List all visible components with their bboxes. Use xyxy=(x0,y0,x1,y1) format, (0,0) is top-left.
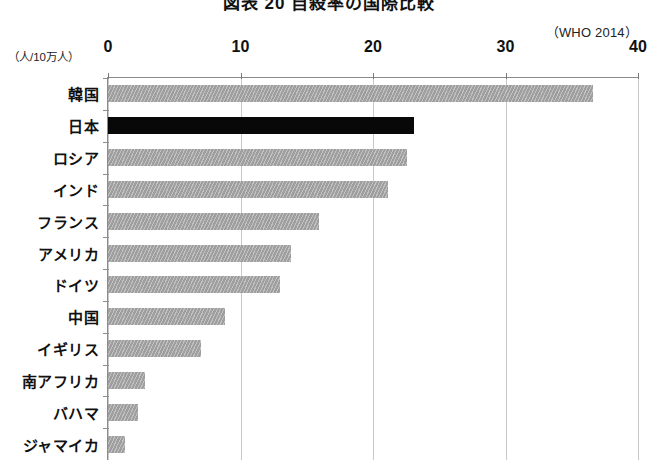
y-axis-category-label: イギリス xyxy=(3,333,99,365)
y-axis-tick xyxy=(103,428,109,429)
x-gridline xyxy=(638,78,639,460)
bar-row: イギリス xyxy=(108,333,638,365)
y-axis-category-label-text: 日本 xyxy=(68,115,99,136)
bar xyxy=(108,181,388,198)
y-axis-tick xyxy=(103,142,109,143)
x-axis-tick-label: 20 xyxy=(364,38,382,56)
bar xyxy=(108,436,125,453)
y-axis-category-label: ジャマイカ xyxy=(3,428,99,460)
y-axis-category-label-text: ロシア xyxy=(53,147,100,168)
x-axis-tick-label: 10 xyxy=(232,38,250,56)
y-axis-category-label-text: ジャマイカ xyxy=(23,434,100,455)
y-axis-category-label-text: 中国 xyxy=(68,306,99,327)
y-axis-category-label-text: フランス xyxy=(37,211,99,232)
y-axis-tick xyxy=(103,269,109,270)
y-axis-category-label: 南アフリカ xyxy=(3,365,99,397)
y-axis-category-label: バハマ xyxy=(3,396,99,428)
bar-row: 日本 xyxy=(108,110,638,142)
bar-row: 中国 xyxy=(108,301,638,333)
y-axis-category-label: ドイツ xyxy=(3,269,99,301)
x-axis-tick-label: 30 xyxy=(497,38,515,56)
y-axis-category-label-text: ドイツ xyxy=(53,274,100,295)
bar xyxy=(108,308,225,325)
source-note: （WHO 2014） xyxy=(546,22,638,41)
y-axis-category-label: フランス xyxy=(3,205,99,237)
y-axis-category-label: ロシア xyxy=(3,142,99,174)
y-axis-category-label-text: アメリカ xyxy=(38,243,99,264)
bar xyxy=(108,213,319,230)
y-axis-category-label-text: 南アフリカ xyxy=(22,370,100,391)
bar xyxy=(108,276,280,293)
y-axis-tick xyxy=(103,174,109,175)
y-axis-tick xyxy=(103,333,109,334)
y-axis-tick xyxy=(103,301,109,302)
x-axis-tick xyxy=(638,73,639,79)
y-axis-category-label: 韓国 xyxy=(3,78,99,110)
bar xyxy=(108,85,593,102)
x-axis-tick-label: 40 xyxy=(629,38,647,56)
bar-row: 南アフリカ xyxy=(108,365,638,397)
y-axis-category-label: インド xyxy=(3,174,99,206)
chart-title: 図表 20 自殺率の国際比較 xyxy=(0,0,658,14)
y-axis-category-label: アメリカ xyxy=(3,237,99,269)
bar-row: バハマ xyxy=(108,396,638,428)
y-axis-category-label-text: バハマ xyxy=(53,402,100,423)
y-axis-category-label: 中国 xyxy=(3,301,99,333)
bar-row: 韓国 xyxy=(108,78,638,110)
axis-unit-caption: （人/10万人） xyxy=(8,48,79,64)
bar-highlighted xyxy=(108,117,414,134)
y-axis-tick xyxy=(103,110,109,111)
bar-row: ドイツ xyxy=(108,269,638,301)
x-axis-tick-label: 0 xyxy=(104,38,113,56)
bar xyxy=(108,372,145,389)
bar xyxy=(108,245,291,262)
bar xyxy=(108,340,201,357)
bar-row: アメリカ xyxy=(108,237,638,269)
y-axis-tick xyxy=(103,396,109,397)
y-axis-category-label: 日本 xyxy=(3,110,99,142)
y-axis-tick xyxy=(103,78,109,79)
bar-row: ロシア xyxy=(108,142,638,174)
plot-area: 010203040韓国日本ロシアインドフランスアメリカドイツ中国イギリス南アフリ… xyxy=(108,78,638,460)
figure-container: 図表 20 自殺率の国際比較 （WHO 2014） （人/10万人） 01020… xyxy=(0,0,658,465)
bar-row: ジャマイカ xyxy=(108,428,638,460)
bar xyxy=(108,149,407,166)
bar xyxy=(108,404,138,421)
y-axis-tick xyxy=(103,365,109,366)
y-axis-category-label-text: イギリス xyxy=(37,338,99,359)
y-axis-category-label-text: インド xyxy=(53,179,100,200)
y-axis-tick xyxy=(103,205,109,206)
y-axis-tick xyxy=(103,237,109,238)
bar-row: インド xyxy=(108,174,638,206)
bar-row: フランス xyxy=(108,205,638,237)
y-axis-category-label-text: 韓国 xyxy=(68,83,99,104)
